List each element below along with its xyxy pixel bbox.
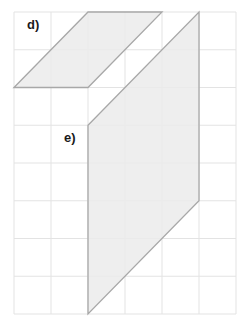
label-d: d) bbox=[27, 17, 39, 32]
label-e: e) bbox=[64, 130, 76, 145]
grid-diagram bbox=[0, 0, 243, 321]
